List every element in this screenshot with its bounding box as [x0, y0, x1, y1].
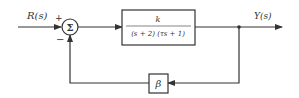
sigma-symbol: Σ [66, 22, 73, 33]
output-label: Y(s) [254, 11, 272, 21]
feedback-gain-label: β [155, 78, 162, 89]
feedback-block: β [149, 74, 168, 93]
minus-sign: − [56, 34, 64, 45]
plus-sign: + [55, 13, 63, 23]
input-label: R(s) [26, 10, 48, 21]
summing-junction: Σ [62, 19, 78, 35]
block-diagram: R(s) + Σ − k (s + 2) (τs + 1) Y(s) β [0, 0, 299, 98]
forward-numerator: k [156, 15, 161, 24]
forward-denominator: (s + 2) (τs + 1) [131, 30, 185, 38]
forward-transfer-block: k (s + 2) (τs + 1) [122, 10, 195, 45]
